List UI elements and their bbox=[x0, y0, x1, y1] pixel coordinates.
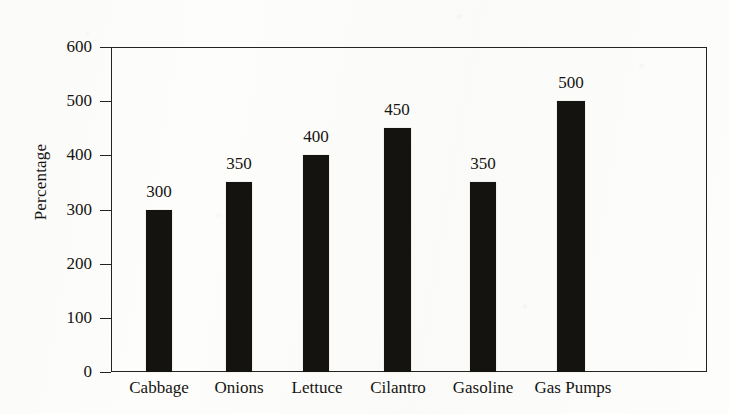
x-category-label-cabbage: Cabbage bbox=[129, 378, 188, 398]
y-tick-label-400: 400 bbox=[36, 145, 92, 165]
bar-value-gas-pumps: 500 bbox=[558, 73, 584, 93]
x-category-label-gas-pumps: Gas Pumps bbox=[535, 378, 612, 398]
y-tick-label-100: 100 bbox=[36, 308, 92, 328]
y-tick-label-200: 200 bbox=[36, 254, 92, 274]
x-category-label-gasoline: Gasoline bbox=[453, 378, 513, 398]
y-tick-mark-200 bbox=[100, 264, 111, 265]
y-axis-title: Percentage bbox=[31, 102, 51, 262]
y-tick-label-500: 500 bbox=[36, 91, 92, 111]
bar-chart-figure: Percentage 600 500 400 300 200 100 0 300… bbox=[0, 0, 729, 414]
x-category-label-onions: Onions bbox=[214, 378, 263, 398]
y-tick-label-300: 300 bbox=[36, 200, 92, 220]
bar-lettuce bbox=[303, 155, 329, 372]
y-tick-mark-0 bbox=[100, 372, 111, 373]
bar-value-cilantro: 450 bbox=[384, 100, 410, 120]
y-tick-mark-500 bbox=[100, 101, 111, 102]
bar-value-gasoline: 350 bbox=[470, 154, 496, 174]
y-tick-label-0: 0 bbox=[36, 362, 92, 382]
y-tick-mark-100 bbox=[100, 318, 111, 319]
bar-cabbage bbox=[146, 210, 172, 373]
bar-value-cabbage: 300 bbox=[146, 182, 172, 202]
bar-cilantro bbox=[384, 128, 411, 372]
y-tick-mark-300 bbox=[100, 210, 111, 211]
bar-value-onions: 350 bbox=[226, 154, 252, 174]
bar-onions bbox=[226, 182, 252, 372]
x-category-label-cilantro: Cilantro bbox=[370, 378, 426, 398]
x-category-label-lettuce: Lettuce bbox=[292, 378, 343, 398]
y-tick-mark-600 bbox=[100, 47, 111, 48]
y-tick-mark-400 bbox=[100, 155, 111, 156]
bar-gasoline bbox=[470, 182, 496, 372]
bar-value-lettuce: 400 bbox=[303, 127, 329, 147]
y-tick-label-600: 600 bbox=[36, 37, 92, 57]
bar-gas-pumps bbox=[557, 101, 585, 372]
